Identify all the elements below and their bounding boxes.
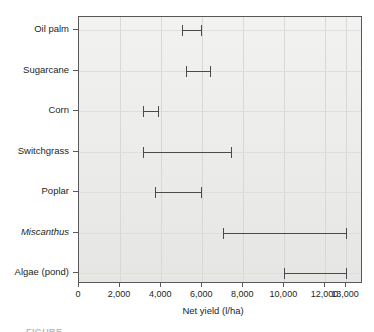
range-marker — [79, 187, 361, 198]
x-axis-tick-mark — [201, 283, 202, 287]
y-axis-tick-label: Corn — [48, 105, 69, 115]
range-line — [143, 152, 231, 153]
y-axis-tick-mark — [73, 70, 78, 71]
x-axis-tick-label: 13,000 — [315, 289, 374, 299]
x-axis-tick-mark — [78, 283, 79, 287]
y-axis-tick-label: Algae (pond) — [15, 267, 69, 277]
range-cap-high — [346, 228, 347, 239]
y-axis-tick-mark — [73, 191, 78, 192]
range-marker — [79, 25, 361, 36]
y-axis-tick-mark — [73, 151, 78, 152]
range-line — [223, 233, 346, 234]
range-marker — [79, 106, 361, 117]
range-cap-low — [182, 25, 183, 36]
y-axis-tick-label: Sugarcane — [23, 65, 69, 75]
range-cap-low — [155, 187, 156, 198]
range-line — [143, 111, 158, 112]
range-marker — [79, 147, 361, 158]
x-axis-tick-mark — [160, 283, 161, 287]
range-cap-high — [231, 147, 232, 158]
range-cap-high — [158, 106, 159, 117]
figure-container: Oil palmSugarcaneCornSwitchgrassPoplarMi… — [0, 0, 374, 332]
y-axis-tick-mark — [73, 110, 78, 111]
x-axis-title: Net yield (l/ha) — [0, 305, 374, 316]
range-cap-low — [143, 147, 144, 158]
range-marker — [79, 228, 361, 239]
x-axis-tick-mark — [283, 283, 284, 287]
range-cap-low — [284, 268, 285, 279]
plot-area — [78, 16, 362, 283]
x-axis-tick-mark — [324, 283, 325, 287]
range-marker — [79, 268, 361, 279]
range-line — [155, 192, 201, 193]
range-cap-high — [201, 25, 202, 36]
y-axis-tick-label: Miscanthus — [21, 227, 69, 237]
figure-caption-partial: FIGURE — [26, 327, 62, 332]
y-axis-tick-label: Oil palm — [34, 24, 69, 34]
range-cap-high — [210, 66, 211, 77]
x-axis-tick-mark — [119, 283, 120, 287]
range-line — [182, 30, 202, 31]
y-axis-tick-mark — [73, 29, 78, 30]
y-axis-tick-mark — [73, 232, 78, 233]
y-axis-tick-label: Switchgrass — [18, 146, 69, 156]
range-line — [186, 71, 211, 72]
x-axis-tick-mark — [242, 283, 243, 287]
range-cap-low — [143, 106, 144, 117]
range-marker — [79, 66, 361, 77]
range-line — [284, 273, 346, 274]
range-cap-high — [346, 268, 347, 279]
x-axis-title-text: Net yield (l/ha) — [182, 305, 243, 316]
range-cap-high — [201, 187, 202, 198]
y-axis-tick-mark — [73, 272, 78, 273]
range-cap-low — [223, 228, 224, 239]
y-axis-tick-label: Poplar — [42, 186, 69, 196]
range-cap-low — [186, 66, 187, 77]
x-axis-tick-mark — [345, 283, 346, 287]
